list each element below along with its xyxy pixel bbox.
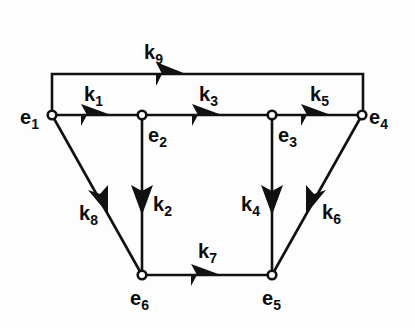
graph-canvas: e1 e2 e3 e4 e5 e6 k1 k2 k3 k4 k5 k6 k7 k… — [0, 0, 415, 328]
graph-diagram: e1 e2 e3 e4 e5 e6 k1 k2 k3 k4 k5 k6 k7 k… — [0, 0, 415, 328]
node-e2[interactable] — [138, 111, 147, 120]
node-e5[interactable] — [268, 271, 277, 280]
edge-arrowhead-k7 — [191, 264, 221, 286]
edge-label-k4: k4 — [241, 193, 260, 219]
edge-label-k9: k9 — [144, 41, 163, 67]
node-e6[interactable] — [138, 271, 147, 280]
edge-arrowhead-k8 — [88, 185, 108, 214]
node-label-e4: e4 — [369, 106, 388, 132]
node-label-e2: e2 — [148, 124, 167, 150]
node-e4[interactable] — [358, 111, 367, 120]
node-e1[interactable] — [48, 111, 57, 120]
node-e3[interactable] — [268, 111, 277, 120]
edge-label-k1: k1 — [84, 83, 103, 109]
edge-label-k7: k7 — [198, 240, 217, 266]
edge-label-k2: k2 — [153, 193, 172, 219]
node-label-e5: e5 — [262, 287, 281, 313]
edge-label-k6: k6 — [322, 201, 341, 227]
edge-label-k5: k5 — [310, 83, 329, 109]
edge-label-k8: k8 — [79, 202, 98, 228]
node-label-e3: e3 — [278, 124, 297, 150]
node-label-e6: e6 — [130, 287, 149, 313]
node-label-e1: e1 — [20, 106, 39, 132]
edge-label-k3: k3 — [199, 83, 218, 109]
